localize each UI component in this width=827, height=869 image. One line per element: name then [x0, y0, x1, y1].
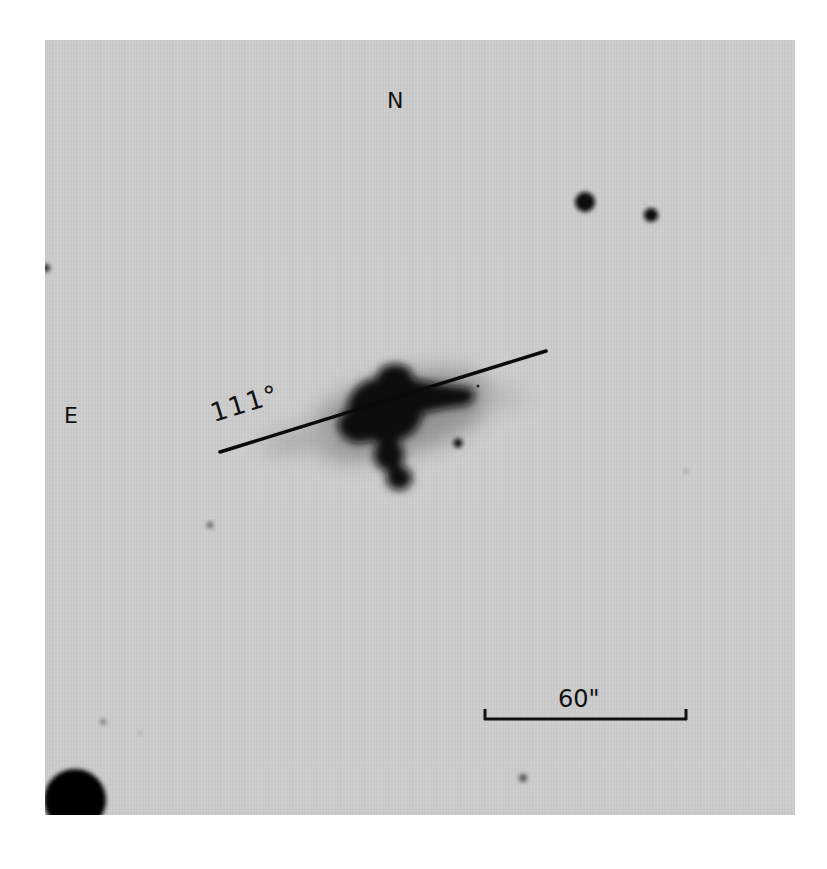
star: [454, 439, 463, 448]
star: [477, 385, 480, 388]
star: [138, 731, 142, 735]
star: [44, 769, 106, 831]
star: [100, 719, 106, 725]
star: [519, 774, 527, 782]
star: [42, 264, 50, 272]
star: [684, 469, 688, 473]
field-stars: [42, 192, 688, 831]
plate-overlay: [0, 0, 827, 869]
star: [644, 208, 658, 222]
east-label: E: [64, 405, 78, 427]
north-label: N: [387, 90, 403, 112]
star: [575, 192, 595, 212]
star: [207, 522, 213, 528]
scale-bar-label: 60": [558, 687, 600, 711]
